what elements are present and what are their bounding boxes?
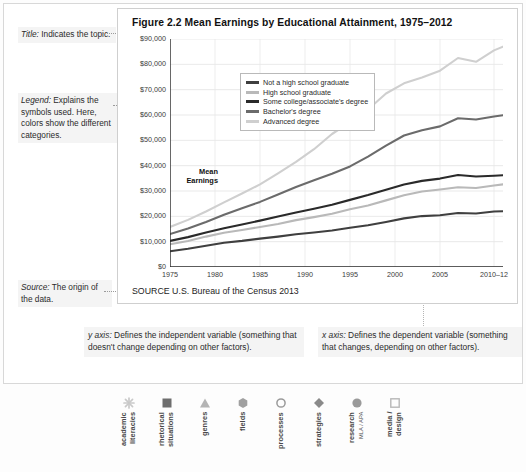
legend-item: Not a high school graduate [246,78,368,88]
academic-literacies-icon [123,396,136,409]
annotation-y-axis-label: y axis: [88,330,112,340]
figure-panel: Figure 2.2 Mean Earnings by Educational … [117,8,518,304]
icon-caption: rhetoricalsituations [158,412,175,470]
legend-swatch [246,100,259,103]
fields-icon [237,396,250,409]
margin-note-source-label: Source: [21,282,50,292]
x-axis-tick-label: 1990 [285,270,325,279]
chart-legend: Not a high school graduateHigh school gr… [240,73,375,131]
legend-item: Some college/associate's degree [246,97,368,107]
media-design-icon [389,396,402,409]
y-axis-tick-label: $80,000 [122,59,166,68]
y-axis-tick-label: $10,000 [122,237,166,246]
legend-label: Advanced degree [263,117,319,126]
x-axis-tick-label: 1975 [150,270,190,279]
legend-label: Bachelor's degree [263,107,321,116]
margin-note-title-label: Title: [21,29,39,39]
x-axis-tick-label: 1985 [240,270,280,279]
legend-label: Not a high school graduate [263,78,349,87]
annotation-x-axis-label: x axis: [322,330,346,340]
icon-caption: strategies [315,412,324,470]
icon-caption: genres [201,412,210,470]
rhetorical-situations-icon [161,396,174,409]
y-axis-tick-label: $70,000 [122,85,166,94]
processes-icon [275,396,288,409]
y-axis-tick-label: $90,000 [122,34,166,43]
y-axis-tick-label: $60,000 [122,110,166,119]
icon-cell-media-design[interactable]: media /design [376,396,414,470]
annotation-y-axis: y axis: Defines the independent variable… [84,327,304,357]
figure-source: SOURCE U.S. Bureau of the Census 2013 [132,286,299,296]
icon-caption: processes [277,412,286,470]
annotation-x-axis: x axis: Defines the dependent variable (… [318,327,522,357]
research-icon [351,396,364,409]
legend-swatch [246,91,259,94]
y-axis-tick-label: $40,000 [122,161,166,170]
y-axis-tick-label: $50,000 [122,135,166,144]
icon-cell-processes[interactable]: processes [262,396,300,470]
figure-title: Figure 2.2 Mean Earnings by Educational … [132,17,452,28]
margin-note-source: Source: The origin of the data. [18,280,112,307]
margin-note-title: Title: Indicates the topic. [18,27,116,43]
legend-item: High school graduate [246,88,368,98]
legend-label: High school graduate [263,88,331,97]
y-axis-title: MeanEarnings [174,167,218,185]
legend-item: Advanced degree [246,116,368,126]
chart-plot-area: $0$10,000$20,000$30,000$40,000$50,000$60… [170,39,503,267]
x-axis-tick-label: 1995 [330,270,370,279]
legend-item: Bachelor's degree [246,107,368,117]
annotation-y-axis-text: Defines the independent variable (someth… [88,330,297,352]
x-axis-tick-label: 2000 [375,270,415,279]
x-axis-tick-label: 2010–12 [474,270,514,279]
x-axis-tick-label: 1980 [195,270,235,279]
margin-note-legend: Legend: Explains the symbols used. Here,… [18,93,120,143]
strategies-icon [313,396,326,409]
icon-caption: researchMLA / APA [348,412,365,470]
annotation-x-axis-text: Defines the dependent variable (somethin… [322,330,508,352]
icon-caption: academicliteracies [120,412,137,470]
y-axis-tick-label: $20,000 [122,211,166,220]
figure-source-text: U.S. Bureau of the Census 2013 [172,286,299,296]
margin-note-title-text: Indicates the topic. [39,29,111,39]
y-axis-tick-label: $30,000 [122,186,166,195]
icon-caption: fields [239,412,248,470]
icon-cell-rhetorical-situations[interactable]: rhetoricalsituations [148,396,186,470]
icon-cell-academic-literacies[interactable]: academicliteracies [110,396,148,470]
icon-cell-fields[interactable]: fields [224,396,262,470]
icon-cell-research[interactable]: researchMLA / APA [338,396,376,470]
legend-swatch [246,81,259,84]
icon-caption: media /design [386,412,403,470]
icon-strip: academicliteraciesrhetoricalsituationsge… [110,396,414,470]
legend-swatch [246,110,259,113]
margin-note-legend-label: Legend: [21,95,51,105]
legend-label: Some college/associate's degree [263,97,368,106]
legend-swatch [246,120,259,123]
icon-cell-strategies[interactable]: strategies [300,396,338,470]
figure-source-label: SOURCE [132,286,170,296]
x-axis-tick-label: 2005 [420,270,460,279]
genres-icon [199,396,212,409]
page-canvas: Title: Indicates the topic. Legend: Expl… [0,0,526,472]
icon-cell-genres[interactable]: genres [186,396,224,470]
